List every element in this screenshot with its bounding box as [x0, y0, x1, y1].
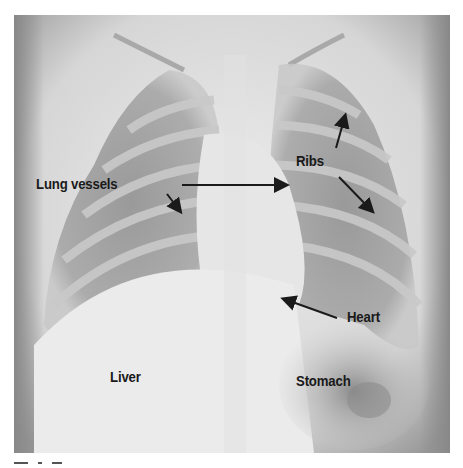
label-ribs: Ribs	[296, 152, 324, 169]
xray-drawing	[14, 15, 450, 453]
label-liver: Liver	[110, 368, 141, 385]
cut-off-caption	[14, 462, 94, 468]
chest-xray-image: Lung vessels Ribs Heart Liver Stomach	[14, 15, 450, 453]
label-stomach: Stomach	[296, 372, 351, 389]
label-heart: Heart	[347, 308, 380, 325]
label-lung-vessels: Lung vessels	[36, 175, 118, 192]
